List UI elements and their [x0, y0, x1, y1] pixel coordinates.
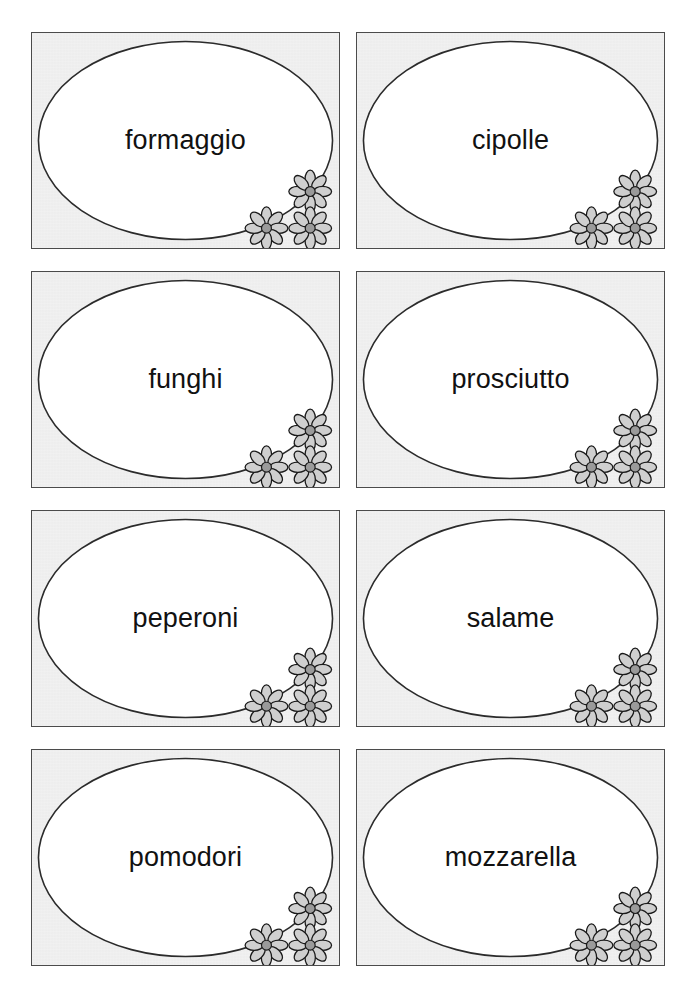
white-ellipse	[38, 280, 332, 478]
daisy-icon	[289, 207, 332, 248]
label-card[interactable]: peperoni	[31, 510, 340, 727]
daisy-icon	[570, 207, 613, 248]
white-ellipse	[363, 519, 657, 717]
label-card[interactable]: funghi	[31, 271, 340, 488]
card-artwork	[32, 272, 339, 487]
label-card[interactable]: cipolle	[356, 32, 665, 249]
daisy-icon	[570, 924, 613, 965]
label-sheet: formaggio	[0, 0, 682, 994]
daisy-icon	[245, 685, 288, 726]
daisy-icon	[570, 446, 613, 487]
white-ellipse	[363, 280, 657, 478]
daisy-icon	[289, 446, 332, 487]
card-artwork	[32, 750, 339, 965]
label-card[interactable]: mozzarella	[356, 749, 665, 966]
daisy-icon	[614, 685, 657, 726]
daisy-icon	[614, 446, 657, 487]
white-ellipse	[363, 758, 657, 956]
card-artwork	[32, 33, 339, 248]
white-ellipse	[38, 41, 332, 239]
daisy-icon	[289, 685, 332, 726]
white-ellipse	[38, 519, 332, 717]
daisy-icon	[245, 924, 288, 965]
daisy-icon	[245, 446, 288, 487]
card-artwork	[357, 750, 664, 965]
white-ellipse	[363, 41, 657, 239]
card-grid: formaggio	[31, 32, 665, 968]
daisy-icon	[614, 207, 657, 248]
daisy-icon	[614, 924, 657, 965]
card-artwork	[32, 511, 339, 726]
daisy-icon	[289, 924, 332, 965]
card-artwork	[357, 511, 664, 726]
white-ellipse	[38, 758, 332, 956]
card-artwork	[357, 33, 664, 248]
card-artwork	[357, 272, 664, 487]
label-card[interactable]: formaggio	[31, 32, 340, 249]
label-card[interactable]: salame	[356, 510, 665, 727]
daisy-icon	[570, 685, 613, 726]
daisy-icon	[245, 207, 288, 248]
label-card[interactable]: prosciutto	[356, 271, 665, 488]
label-card[interactable]: pomodori	[31, 749, 340, 966]
